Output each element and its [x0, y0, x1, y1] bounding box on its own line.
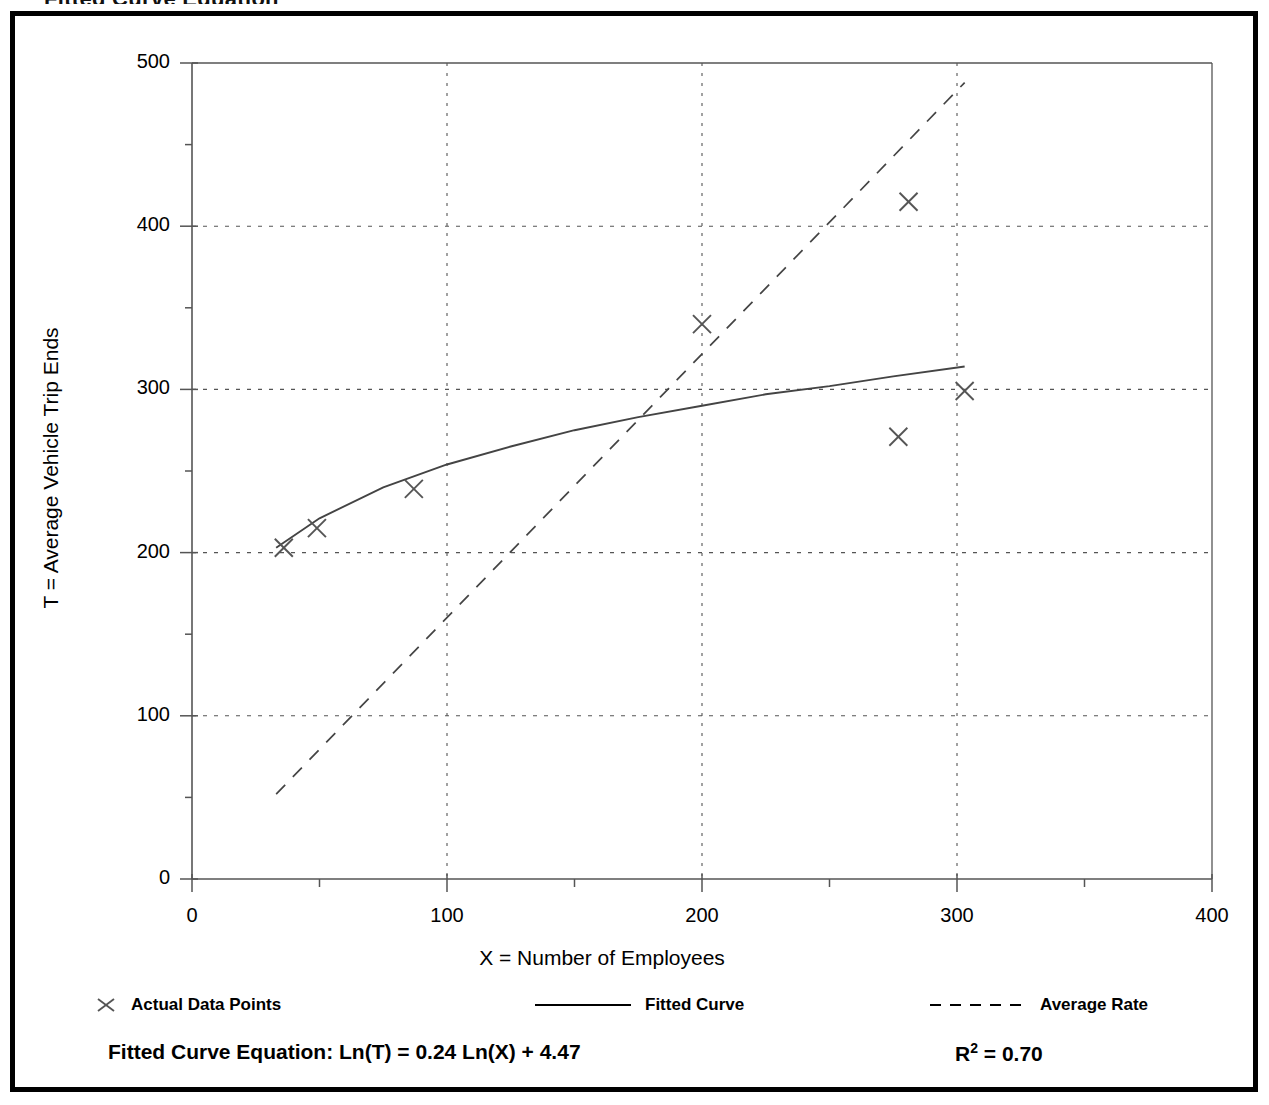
x-tick-label-400: 400 — [1177, 904, 1247, 927]
legend-label: Actual Data Points — [131, 995, 281, 1015]
y-tick-label-500: 500 — [116, 50, 170, 73]
legend-item-fitted-curve[interactable]: Fitted Curve — [535, 990, 744, 1020]
average-rate-line — [276, 83, 965, 795]
y-tick-label-200: 200 — [116, 540, 170, 563]
fitted-curve-path — [276, 367, 965, 548]
chart-legend: Actual Data PointsFitted CurveAverage Ra… — [0, 990, 1269, 1024]
r-squared-value: R2 = 0.70 — [955, 1040, 1043, 1066]
data-point-marker — [308, 519, 326, 537]
data-point-markers — [275, 193, 974, 557]
data-point-marker — [405, 480, 423, 498]
r-squared-number: = 0.70 — [978, 1042, 1043, 1065]
plot-area-wrapper: T = Average Vehicle Trip Ends X = Number… — [0, 0, 1269, 1105]
r-squared-exponent: 2 — [970, 1040, 978, 1056]
data-point-marker — [889, 428, 907, 446]
x-tick-label-200: 200 — [667, 904, 737, 927]
legend-item-actual-data-points[interactable]: Actual Data Points — [95, 990, 281, 1020]
chart-page: Fitted Curve Equation T = Average Vehicl… — [0, 0, 1269, 1105]
r-squared-prefix: R — [955, 1042, 970, 1065]
data-point-marker — [693, 315, 711, 333]
x-axis-title: X = Number of Employees — [392, 946, 812, 970]
dashed-line-icon — [930, 996, 1026, 1014]
y-tick-label-0: 0 — [116, 866, 170, 889]
legend-item-average-rate[interactable]: Average Rate — [930, 990, 1148, 1020]
gridlines-layer — [192, 63, 1212, 879]
chart-svg — [0, 0, 1269, 1105]
y-tick-label-300: 300 — [116, 376, 170, 399]
average-rate-path — [276, 83, 965, 795]
y-tick-label-100: 100 — [116, 703, 170, 726]
chart-footer: Fitted Curve Equation: Ln(T) = 0.24 Ln(X… — [0, 1040, 1269, 1080]
fitted-curve-equation: Fitted Curve Equation: Ln(T) = 0.24 Ln(X… — [108, 1040, 581, 1064]
x-tick-label-300: 300 — [922, 904, 992, 927]
axis-ticks-layer — [180, 63, 1212, 892]
y-tick-label-400: 400 — [116, 213, 170, 236]
solid-line-icon — [535, 996, 631, 1014]
data-point-marker — [956, 382, 974, 400]
legend-label: Average Rate — [1040, 995, 1148, 1015]
fitted-curve-line — [276, 367, 965, 548]
y-axis-title: T = Average Vehicle Trip Ends — [39, 298, 63, 638]
legend-label: Fitted Curve — [645, 995, 744, 1015]
data-point-marker — [900, 193, 918, 211]
x-tick-label-0: 0 — [157, 904, 227, 927]
x-tick-label-100: 100 — [412, 904, 482, 927]
x-marker-icon — [95, 996, 117, 1014]
